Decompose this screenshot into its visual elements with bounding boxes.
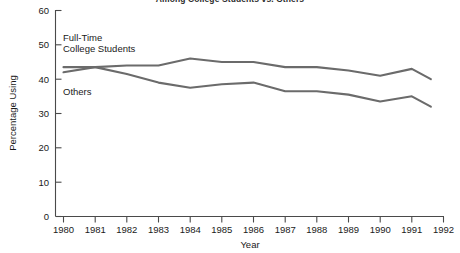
x-tick-label-1985: 1985 (211, 224, 232, 235)
y-tick-label-40: 40 (38, 74, 49, 85)
y-tick-label-30: 30 (38, 108, 49, 119)
y-tick-label-0: 0 (44, 211, 49, 222)
series-label-others: Others (63, 86, 92, 97)
y-tick-label-60: 60 (38, 5, 49, 16)
series-label-college-line2: College Students (63, 43, 136, 54)
x-tick-label-1980: 1980 (53, 224, 74, 235)
y-axis-tick-labels: 60 50 40 30 20 10 0 (38, 5, 49, 222)
y-axis-title: Percentage Using (7, 75, 18, 151)
x-axis-ticks (64, 217, 444, 223)
y-tick-label-10: 10 (38, 177, 49, 188)
x-tick-label-1990: 1990 (370, 224, 391, 235)
chart-figure: Among College Students vs. Others 60 50 … (0, 0, 460, 253)
series-label-college-line1: Full-Time (63, 32, 102, 43)
x-tick-label-1983: 1983 (148, 224, 169, 235)
y-axis-ticks (56, 11, 62, 217)
x-tick-label-1989: 1989 (338, 224, 359, 235)
y-tick-label-50: 50 (38, 39, 49, 50)
x-axis-tick-labels: 1980 1981 1982 1983 1984 1985 1986 1987 … (53, 224, 454, 235)
x-tick-label-1986: 1986 (243, 224, 264, 235)
x-tick-label-1988: 1988 (306, 224, 327, 235)
x-axis-title: Year (240, 239, 259, 250)
series-line-others (64, 67, 431, 106)
x-tick-label-1991: 1991 (401, 224, 422, 235)
x-tick-label-1984: 1984 (180, 224, 201, 235)
x-tick-label-1982: 1982 (116, 224, 137, 235)
y-tick-label-20: 20 (38, 142, 49, 153)
series-line-full-time-college-students (64, 59, 431, 80)
x-tick-label-1987: 1987 (275, 224, 296, 235)
x-tick-label-1981: 1981 (85, 224, 106, 235)
line-chart-canvas: 60 50 40 30 20 10 0 Percentage Using 198 (0, 0, 460, 253)
x-tick-label-1992: 1992 (433, 224, 454, 235)
